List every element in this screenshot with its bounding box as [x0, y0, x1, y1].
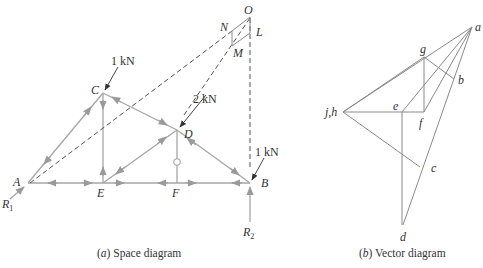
vector-a-d: [403, 27, 472, 225]
label-B: B: [261, 176, 269, 190]
member-DE: [103, 130, 177, 183]
label-D: D: [183, 127, 193, 141]
label-E: E: [96, 186, 105, 200]
label-M: M: [232, 46, 244, 60]
load-label-C: 1 kN: [111, 54, 135, 68]
label-a: a: [475, 20, 481, 34]
external-loads: [10, 67, 264, 222]
space-labels: O N L M 1 kN 2 kN 1 kN C D A E F B R1 R2…: [1, 3, 279, 260]
label-c: c: [431, 161, 437, 175]
label-L: L: [255, 25, 263, 39]
label-N: N: [219, 20, 229, 34]
member-force-arrows: [44, 97, 242, 183]
label-g: g: [420, 42, 426, 56]
label-e: e: [393, 99, 399, 113]
vector-diagram: a g b j,h e f c d (b) Vector diagram: [323, 20, 481, 260]
label-F: F: [171, 186, 180, 200]
label-R1: R1: [1, 197, 13, 213]
figure: O N L M 1 kN 2 kN 1 kN C D A E F B R1 R2…: [0, 0, 483, 268]
caption-vector-diagram: (b) Vector diagram: [359, 247, 446, 260]
vector-g-b: [424, 57, 454, 79]
label-jh: j,h: [323, 105, 337, 119]
hinge-circle: [174, 159, 180, 165]
label-O: O: [244, 3, 253, 17]
label-A: A: [12, 175, 21, 189]
vector-jh-c: [343, 112, 420, 167]
label-R2: R2: [242, 225, 254, 241]
label-b: b: [458, 73, 464, 87]
space-diagram: O N L M 1 kN 2 kN 1 kN C D A E F B R1 R2…: [1, 3, 279, 260]
truss-members: [28, 93, 250, 183]
load-arrow-C: [105, 67, 118, 90]
load-label-B: 1 kN: [255, 145, 279, 159]
member-AC: [28, 93, 103, 183]
vector-jh-g: [343, 57, 424, 112]
load-label-D: 2 kN: [193, 92, 217, 106]
construction-lines: [30, 17, 250, 183]
line-M-L: [232, 33, 250, 46]
caption-space-diagram: (a) Space diagram: [97, 247, 181, 260]
vector-a-f: [424, 27, 472, 112]
label-d: d: [400, 230, 407, 244]
label-f: f: [419, 116, 424, 130]
vector-a-e: [402, 27, 472, 112]
label-C: C: [91, 83, 100, 97]
line-O-N: [232, 17, 250, 31]
